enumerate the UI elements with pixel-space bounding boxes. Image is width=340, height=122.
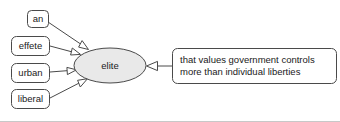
node-an-label: an: [33, 13, 44, 24]
node-definition[interactable]: that values government controls more tha…: [173, 49, 337, 84]
concept-diagram: an effete urban liberal elite that value…: [0, 0, 340, 122]
edge-urban-to-elite: [50, 67, 77, 74]
edge-definition-to-elite: [147, 61, 173, 70]
node-an[interactable]: an: [28, 11, 49, 28]
edge-effete-to-elite: [50, 46, 81, 55]
node-urban[interactable]: urban: [12, 64, 50, 83]
arrowhead-an-icon: [79, 41, 89, 50]
node-elite[interactable]: elite: [74, 48, 146, 83]
arrowhead-liberal-icon: [78, 79, 88, 87]
node-elite-label: elite: [101, 60, 118, 71]
node-definition-line1: that values government controls: [180, 54, 315, 65]
node-urban-label: urban: [18, 67, 42, 78]
node-liberal[interactable]: liberal: [12, 90, 50, 109]
arrowhead-effete-icon: [71, 48, 81, 55]
edge-liberal-to-elite: [50, 79, 88, 98]
edge-an-to-elite: [48, 22, 89, 50]
arrowhead-definition-icon: [147, 61, 158, 70]
node-liberal-label: liberal: [18, 93, 43, 104]
diagram-svg: an effete urban liberal elite that value…: [0, 0, 340, 122]
node-effete[interactable]: effete: [12, 37, 50, 56]
node-definition-line2: more than individual liberties: [180, 66, 301, 77]
node-effete-label: effete: [19, 40, 43, 51]
